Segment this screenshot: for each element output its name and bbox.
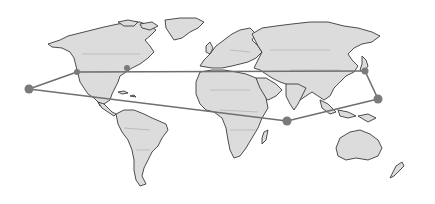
new-zealand [390, 162, 404, 178]
node-marker[interactable] [374, 95, 383, 104]
greenland [165, 18, 204, 40]
madagascar [262, 130, 268, 144]
route-segment [77, 71, 365, 72]
map-canvas [0, 0, 435, 204]
route-segment [365, 71, 378, 99]
node-marker[interactable] [124, 65, 130, 71]
route-segment [29, 72, 77, 89]
australia [336, 130, 382, 160]
world-map [0, 0, 435, 204]
node-marker[interactable] [283, 117, 292, 126]
central-america [98, 102, 116, 116]
node-marker[interactable] [74, 69, 80, 75]
node-marker[interactable] [25, 85, 34, 94]
south-america [116, 110, 168, 186]
caribbean-islands [118, 91, 136, 97]
node-marker[interactable] [362, 68, 369, 75]
